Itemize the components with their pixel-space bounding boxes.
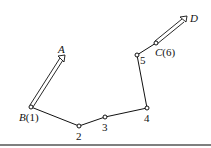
linkage-diagram: A B(1) 2 3 4 5 C(6) D — [0, 0, 211, 148]
joints — [29, 41, 158, 128]
joint-4 — [145, 106, 149, 110]
arrow-c-to-d — [155, 16, 187, 44]
joint-b1 — [29, 105, 33, 109]
label-b1: B(1) — [19, 111, 39, 124]
label-2: 2 — [76, 130, 82, 142]
joint-c6 — [154, 41, 158, 45]
label-5: 5 — [140, 54, 146, 66]
link-3-4 — [105, 108, 147, 117]
joint-5 — [135, 53, 139, 57]
label-d: D — [189, 12, 198, 24]
label-3: 3 — [102, 121, 108, 133]
label-4: 4 — [144, 112, 150, 124]
label-a: A — [57, 43, 65, 55]
arrow-b-to-a — [30, 55, 65, 107]
label-c6: C(6) — [155, 46, 176, 59]
joint-3 — [103, 115, 107, 119]
joint-2 — [77, 124, 81, 128]
